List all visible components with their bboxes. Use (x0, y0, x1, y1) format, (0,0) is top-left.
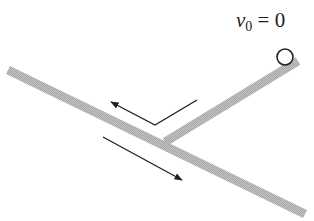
velocity-symbol: v (236, 8, 245, 32)
branch-track (165, 61, 298, 142)
ball (277, 49, 293, 65)
equals-sign: = (252, 8, 274, 32)
main-track (8, 70, 305, 214)
velocity-value: 0 (275, 8, 286, 32)
initial-velocity-label: v0 = 0 (236, 8, 285, 35)
